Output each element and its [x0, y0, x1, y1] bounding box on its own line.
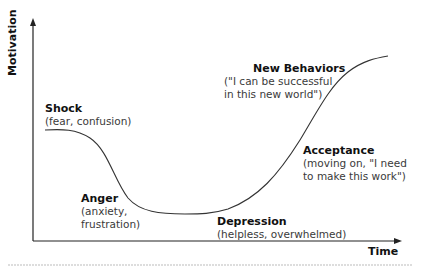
- stage-acceptance-desc-2: to make this work"): [303, 170, 407, 183]
- stage-acceptance-desc-1: (moving on, "I need: [303, 157, 407, 170]
- stage-depression-desc: (helpless, overwhelmed): [217, 228, 346, 241]
- stage-anger-title: Anger: [81, 192, 140, 205]
- y-axis-label: Motivation: [6, 9, 19, 76]
- x-axis-arrow-icon: [394, 238, 402, 244]
- stage-new-behaviors-title: New Behaviors: [224, 62, 345, 75]
- stage-anger: Anger (anxiety, frustration): [81, 192, 140, 231]
- y-axis-arrow-icon: [30, 18, 36, 26]
- stage-shock-title: Shock: [45, 102, 131, 115]
- stage-acceptance-title: Acceptance: [303, 144, 407, 157]
- stage-depression-title: Depression: [217, 215, 346, 228]
- stage-depression: Depression (helpless, overwhelmed): [217, 215, 346, 241]
- stage-acceptance: Acceptance (moving on, "I need to make t…: [303, 144, 407, 183]
- stage-anger-desc-1: (anxiety,: [81, 205, 140, 218]
- stage-anger-desc-2: frustration): [81, 218, 140, 231]
- change-curve-diagram: [0, 0, 421, 276]
- stage-new-behaviors: New Behaviors ("I can be successful in t…: [224, 62, 345, 101]
- stage-shock: Shock (fear, confusion): [45, 102, 131, 128]
- stage-new-behaviors-desc-2: in this new world"): [224, 88, 345, 101]
- stage-new-behaviors-desc-1: ("I can be successful: [224, 75, 345, 88]
- x-axis-label: Time: [368, 245, 398, 258]
- stage-shock-desc: (fear, confusion): [45, 115, 131, 128]
